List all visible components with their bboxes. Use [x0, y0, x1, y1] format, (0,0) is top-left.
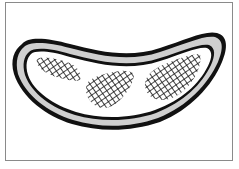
crescent-illustration [0, 0, 239, 169]
